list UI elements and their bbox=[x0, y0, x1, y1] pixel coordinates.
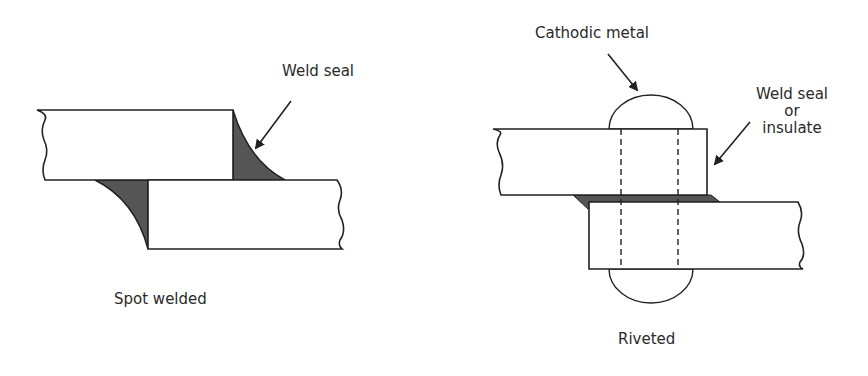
top-plate bbox=[37, 110, 233, 180]
label-line: insulate bbox=[740, 120, 844, 137]
weld-seal-arrow bbox=[256, 101, 291, 148]
rivet-head-top bbox=[609, 95, 693, 129]
weld-seal-or-insulate-label: Weld seal or insulate bbox=[740, 86, 844, 137]
riveted-caption: Riveted bbox=[618, 330, 675, 348]
weld-seal-lower bbox=[95, 180, 148, 249]
spot-welded-diagram bbox=[37, 101, 344, 249]
label-line: or bbox=[740, 103, 844, 120]
rivet-head-bottom bbox=[609, 269, 693, 303]
top-plate bbox=[493, 129, 707, 195]
spot-welded-caption: Spot welded bbox=[114, 290, 207, 308]
cathodic-metal-arrow bbox=[608, 54, 637, 90]
bottom-plate bbox=[148, 180, 344, 249]
joint-diagrams bbox=[0, 0, 868, 376]
cathodic-metal-label: Cathodic metal bbox=[535, 24, 649, 42]
weld-seal-label: Weld seal bbox=[282, 62, 354, 80]
label-line: Weld seal bbox=[740, 86, 844, 103]
